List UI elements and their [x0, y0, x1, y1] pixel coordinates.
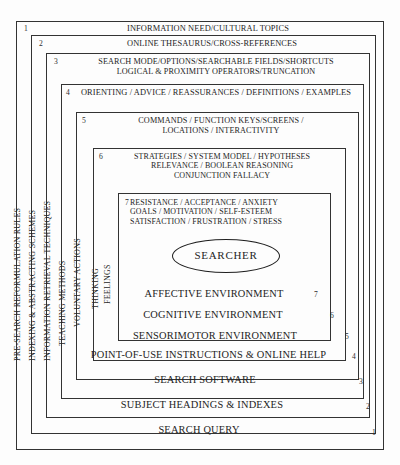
- level-5-number-bottom: 5: [345, 332, 349, 341]
- level-7-top-text: RESISTANCE / ACCEPTANCE / ANXIETY GOALS …: [130, 198, 326, 226]
- level-3-number-bottom: 3: [359, 377, 363, 386]
- level-5-bottom-text: SENSORIMOTOR ENVIRONMENT: [84, 330, 346, 341]
- level-1-top-text: INFORMATION NEED/CULTURAL TOPICS: [40, 24, 376, 34]
- searcher-label: SEARCHER: [172, 249, 280, 261]
- level-6-number-top: 6: [99, 152, 103, 161]
- level-5-top-text: COMMANDS / FUNCTION KEYS/SCREENS / LOCAT…: [92, 116, 350, 135]
- level-4-side-label: TEACHING METHODS: [58, 260, 67, 346]
- level-4-top-text: ORIENTING / ADVICE / REASSURANCES / DEFI…: [72, 88, 360, 98]
- level-4-bottom-text: POINT-OF-USE INSTRUCTIONS & ONLINE HELP: [66, 349, 351, 360]
- level-2-number-top: 2: [39, 39, 43, 48]
- level-6-top-text: STRATEGIES / SYSTEM MODEL / HYPOTHESES R…: [106, 152, 338, 180]
- level-7-side-label: FEELINGS: [103, 264, 112, 304]
- level-7-bottom-text: AFFECTIVE ENVIRONMENT: [124, 288, 304, 299]
- level-1-number-bottom: 1: [372, 428, 376, 437]
- level-4-number-bottom: 4: [352, 352, 356, 361]
- level-6-bottom-text: COGNITIVE ENVIRONMENT: [100, 309, 326, 320]
- level-2-top-text: ONLINE THESAURUS/CROSS-REFERENCES: [56, 39, 368, 49]
- level-4-number-top: 4: [66, 88, 70, 97]
- level-3-top-text: SEARCH MODE/OPTIONS/SEARCHABLE FIELDS/SH…: [70, 57, 362, 76]
- level-6-side-label: THINKING: [91, 268, 100, 309]
- level-1-side-label: PRE-SEARCH REFORMULATION RULES: [13, 208, 22, 361]
- level-5-number-top: 5: [82, 116, 86, 125]
- level-2-side-label: INDEXING & ABSTRACTING SCHEMES: [28, 210, 37, 361]
- level-7-number-bottom: 7: [314, 290, 318, 299]
- diagram-canvas: INFORMATION NEED/CULTURAL TOPICS ONLINE …: [0, 0, 400, 465]
- level-3-side-label: INFORMATION RETRIEVAL TECHNIQUES: [43, 201, 52, 361]
- level-1-number-top: 1: [24, 24, 28, 33]
- level-5-side-label: VOLUNTARY ACTIONS: [73, 238, 82, 327]
- level-3-bottom-text: SEARCH SOFTWARE: [50, 374, 360, 385]
- level-2-number-bottom: 2: [366, 402, 370, 411]
- level-3-number-top: 3: [54, 57, 58, 66]
- level-6-number-bottom: 6: [330, 311, 334, 320]
- level-7-number-top: 7: [125, 198, 129, 207]
- level-1-bottom-text: SEARCH QUERY: [22, 424, 376, 435]
- level-2-bottom-text: SUBJECT HEADINGS & INDEXES: [36, 399, 368, 410]
